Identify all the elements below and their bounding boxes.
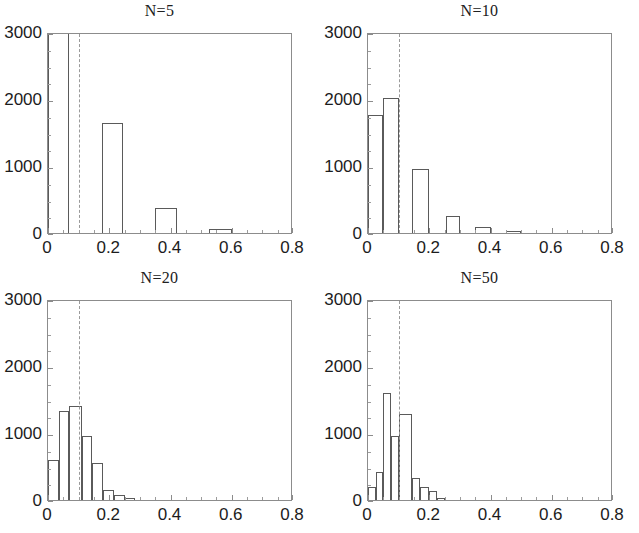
x-tick-label: 0.8 xyxy=(280,238,304,258)
x-tick-minor xyxy=(414,230,415,233)
plot-frame xyxy=(47,300,292,501)
x-tick-minor xyxy=(140,497,141,500)
x-tick-minor xyxy=(567,497,568,500)
histogram-bars xyxy=(368,301,611,500)
histogram-bar xyxy=(82,436,93,500)
x-tick xyxy=(429,228,430,233)
x-tick-minor xyxy=(383,497,384,500)
x-tick-label: 0 xyxy=(362,505,371,525)
y-tick xyxy=(48,301,53,302)
x-tick xyxy=(368,495,369,500)
x-tick-minor xyxy=(598,230,599,233)
y-tick-minor xyxy=(48,318,51,319)
y-tick-label: 2000 xyxy=(4,90,42,110)
y-tick-minor xyxy=(48,118,51,119)
y-tick xyxy=(368,34,373,35)
y-tick xyxy=(368,168,373,169)
histogram-bar xyxy=(429,491,437,500)
x-tick-label: 0.4 xyxy=(158,238,182,258)
y-tick-minor xyxy=(368,318,371,319)
histogram-bar xyxy=(376,472,384,500)
histogram-bar xyxy=(59,411,70,500)
x-tick-minor xyxy=(383,230,384,233)
y-tick-minor xyxy=(368,151,371,152)
x-tick xyxy=(612,495,613,500)
histogram-bar xyxy=(368,115,383,233)
x-tick-minor xyxy=(475,230,476,233)
y-tick-minor xyxy=(368,68,371,69)
y-tick-minor xyxy=(48,418,51,419)
reference-line xyxy=(399,301,400,500)
y-tick-minor xyxy=(48,402,51,403)
histogram-figure: N=500.20.40.60.80100020003000N=1000.20.4… xyxy=(0,0,639,533)
x-tick xyxy=(491,228,492,233)
x-tick-minor xyxy=(79,230,80,233)
panel-title: N=20 xyxy=(0,269,319,287)
x-tick-minor xyxy=(262,230,263,233)
x-tick-label: 0.6 xyxy=(219,238,243,258)
x-tick xyxy=(368,228,369,233)
y-tick-minor xyxy=(368,351,371,352)
x-tick-minor xyxy=(399,230,400,233)
x-tick-label: 0.8 xyxy=(600,238,624,258)
x-tick xyxy=(48,495,49,500)
panel-title: N=50 xyxy=(320,269,639,287)
x-tick-minor xyxy=(63,230,64,233)
x-tick-label: 0.2 xyxy=(416,238,440,258)
y-tick xyxy=(48,168,53,169)
y-tick xyxy=(48,435,53,436)
reference-line xyxy=(399,34,400,233)
y-tick-minor xyxy=(48,68,51,69)
x-tick-minor xyxy=(262,497,263,500)
histogram-bar xyxy=(48,34,69,233)
histogram-bar xyxy=(446,216,460,233)
x-tick-minor xyxy=(536,230,537,233)
y-tick-minor xyxy=(368,335,371,336)
y-tick-label: 1000 xyxy=(324,157,362,177)
y-tick-minor xyxy=(368,402,371,403)
x-tick xyxy=(171,495,172,500)
x-tick-label: 0.2 xyxy=(96,238,120,258)
plot-frame xyxy=(367,300,612,501)
y-tick-label: 0 xyxy=(33,224,42,244)
x-tick-minor xyxy=(247,230,248,233)
plot-frame xyxy=(367,33,612,234)
histogram-panel-n20: N=2000.20.40.60.80100020003000 xyxy=(0,267,319,533)
x-tick-minor xyxy=(125,230,126,233)
x-tick xyxy=(109,228,110,233)
x-tick xyxy=(292,495,293,500)
histogram-bar xyxy=(420,487,429,500)
x-tick-minor xyxy=(598,497,599,500)
y-tick-label: 2000 xyxy=(324,357,362,377)
y-tick xyxy=(48,34,53,35)
histogram-bar xyxy=(92,463,103,500)
x-tick-minor xyxy=(278,497,279,500)
y-tick-minor xyxy=(368,118,371,119)
y-tick-minor xyxy=(368,469,371,470)
x-tick-label: 0.2 xyxy=(416,505,440,525)
y-tick xyxy=(48,368,53,369)
histogram-bar xyxy=(155,208,176,233)
x-tick xyxy=(232,228,233,233)
y-tick-label: 0 xyxy=(353,224,362,244)
y-tick xyxy=(368,101,373,102)
y-tick-minor xyxy=(48,185,51,186)
histogram-bars xyxy=(48,301,291,500)
histogram-bar xyxy=(399,414,413,500)
x-tick xyxy=(292,228,293,233)
histogram-bar xyxy=(102,123,123,233)
x-tick-minor xyxy=(399,497,400,500)
x-tick-label: 0.2 xyxy=(96,505,120,525)
y-tick-minor xyxy=(368,485,371,486)
histogram-bar xyxy=(209,229,232,233)
histogram-bar xyxy=(125,498,136,500)
y-tick-label: 3000 xyxy=(4,290,42,310)
y-tick xyxy=(368,234,373,235)
x-tick-minor xyxy=(414,497,415,500)
histogram-bar xyxy=(383,393,391,500)
x-tick-label: 0 xyxy=(42,238,51,258)
x-tick-minor xyxy=(216,230,217,233)
x-tick-minor xyxy=(94,497,95,500)
y-tick-minor xyxy=(48,151,51,152)
y-tick-label: 0 xyxy=(353,491,362,511)
